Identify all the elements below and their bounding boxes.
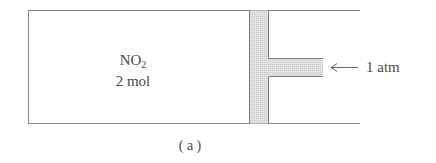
left-arrow-icon [331, 64, 358, 72]
figure-caption: ( a ) [179, 138, 202, 154]
gas-amount-label: 2 mol [116, 73, 151, 89]
piston-cylinder-diagram: NO2 2 mol 1 atm ( a ) [0, 0, 436, 163]
pressure-label: 1 atm [366, 59, 400, 75]
piston [250, 11, 324, 124]
gas-formula-label: NO2 [120, 52, 147, 70]
